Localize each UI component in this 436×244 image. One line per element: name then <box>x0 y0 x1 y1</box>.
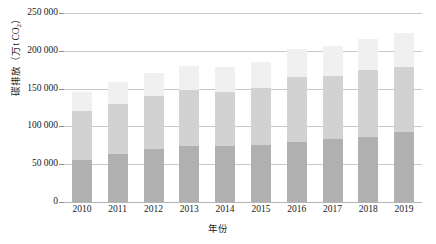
bar-segment[interactable] <box>251 88 271 145</box>
bar-group[interactable] <box>108 13 128 202</box>
y-axis-tick-mark <box>59 89 64 90</box>
y-axis-tick-labels: 050 000100 000150 000200 000250 000 <box>0 13 58 202</box>
bar-segment[interactable] <box>144 73 164 96</box>
bar-group[interactable] <box>251 13 271 202</box>
bar-segment[interactable] <box>215 92 235 146</box>
bar-segment[interactable] <box>251 62 271 88</box>
x-axis-tick-label: 2019 <box>382 205 426 215</box>
bar-segment[interactable] <box>144 149 164 202</box>
bar-group[interactable] <box>215 13 235 202</box>
bar-segment[interactable] <box>215 146 235 202</box>
y-axis-tick-mark <box>59 126 64 127</box>
bar-segment[interactable] <box>323 46 343 76</box>
bar-segment[interactable] <box>358 137 378 202</box>
bar-group[interactable] <box>358 13 378 202</box>
gridline <box>64 202 422 203</box>
y-axis-tick-mark <box>59 164 64 165</box>
bar-segment[interactable] <box>144 96 164 149</box>
bar-segment[interactable] <box>358 39 378 71</box>
bar-group[interactable] <box>72 13 92 202</box>
bar-segment[interactable] <box>394 33 414 68</box>
y-axis-tick-label: 200 000 <box>0 46 58 56</box>
bar-segment[interactable] <box>108 82 128 104</box>
stacked-bar-chart: 碳排放（万t CO2） 050 000100 000150 000200 000… <box>0 0 436 244</box>
bar-segment[interactable] <box>287 142 307 202</box>
bar-segment[interactable] <box>72 111 92 160</box>
y-axis-tick-label: 150 000 <box>0 84 58 94</box>
bar-segment[interactable] <box>179 90 199 146</box>
bar-segment[interactable] <box>394 67 414 131</box>
bar-segment[interactable] <box>287 77 307 142</box>
bar-segment[interactable] <box>108 154 128 202</box>
y-axis-tick-label: 50 000 <box>0 159 58 169</box>
bar-group[interactable] <box>287 13 307 202</box>
bar-group[interactable] <box>144 13 164 202</box>
y-axis-tick-label: 250 000 <box>0 8 58 18</box>
bar-group[interactable] <box>179 13 199 202</box>
bar-segment[interactable] <box>251 145 271 202</box>
bar-segment[interactable] <box>108 104 128 154</box>
y-axis-tick-mark <box>59 202 64 203</box>
bars-layer <box>64 13 422 202</box>
bar-segment[interactable] <box>179 146 199 202</box>
y-axis-tick-mark <box>59 13 64 14</box>
bar-segment[interactable] <box>323 139 343 202</box>
bar-segment[interactable] <box>72 160 92 202</box>
bar-segment[interactable] <box>287 49 307 77</box>
bar-segment[interactable] <box>72 92 92 112</box>
bar-segment[interactable] <box>323 76 343 140</box>
bar-segment[interactable] <box>215 67 235 91</box>
plot-area <box>64 13 422 202</box>
bar-group[interactable] <box>394 13 414 202</box>
y-axis-tick-label: 100 000 <box>0 121 58 131</box>
y-axis-tick-label: 0 <box>0 197 58 207</box>
bar-segment[interactable] <box>394 132 414 202</box>
bar-group[interactable] <box>323 13 343 202</box>
bar-segment[interactable] <box>179 66 199 90</box>
bar-segment[interactable] <box>358 70 378 137</box>
y-axis-tick-mark <box>59 51 64 52</box>
x-axis-title: 年份 <box>0 225 436 235</box>
